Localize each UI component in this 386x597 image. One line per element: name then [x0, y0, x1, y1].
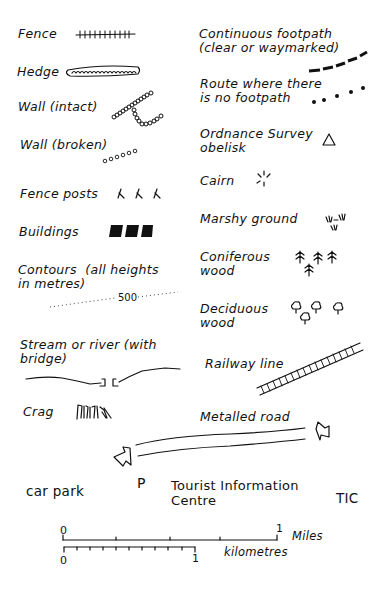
wall-intact-icon: [112, 91, 163, 126]
deciduous-tree-icon: [292, 302, 343, 324]
conifer-tree-icon: [296, 251, 336, 276]
railway-icon: [257, 343, 363, 395]
triangle-icon: [323, 134, 335, 145]
dotted-path-icon: [312, 86, 365, 104]
fence-posts-icon: [118, 189, 160, 198]
wall-broken-icon: [103, 149, 137, 163]
svg-text:500: 500: [118, 292, 137, 303]
cairn-icon: [257, 171, 270, 186]
buildings-icon: [109, 225, 153, 237]
scale-bar-kilometres: [64, 547, 195, 552]
fence-line-icon: [76, 31, 135, 38]
stream-bridge-icon: [26, 368, 180, 386]
dashed-path-icon: [309, 52, 367, 71]
hedge-line-icon: [66, 66, 139, 76]
crag-icon: [77, 405, 111, 419]
road-arrows-icon: [114, 422, 329, 466]
symbols-canvas: 500: [0, 0, 386, 597]
scale-bar-miles: [63, 535, 277, 540]
contour-line-icon: 500: [50, 292, 178, 307]
marsh-icon: [326, 214, 345, 230]
